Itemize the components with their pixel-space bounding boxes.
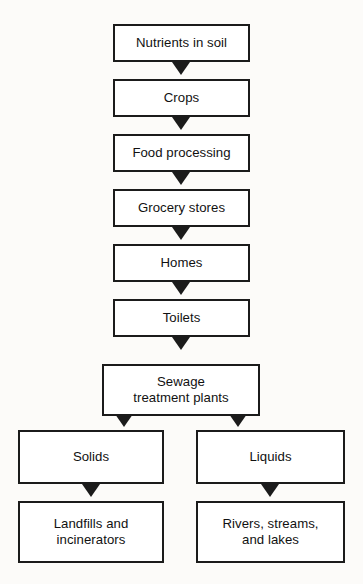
arrow-liquids-to-rivers-streams-and-lakes	[261, 484, 279, 497]
node-solids: Solids	[18, 430, 164, 484]
node-liquids: Liquids	[196, 430, 345, 484]
flowchart-diagram: Nutrients in soil Crops Food processing …	[0, 0, 363, 584]
node-label: Toilets	[159, 310, 205, 326]
node-crops: Crops	[113, 79, 250, 117]
node-label-line-2: and lakes	[238, 532, 303, 548]
node-grocery-stores: Grocery stores	[113, 189, 250, 227]
node-food-processing: Food processing	[113, 134, 250, 172]
arrow-solids-to-landfills-and-incinerators	[82, 484, 100, 497]
arrow-nutrients-to-crops	[172, 62, 190, 75]
node-label: Nutrients in soil	[132, 35, 231, 51]
arrow-crops-to-food-processing	[172, 117, 190, 130]
node-label: Liquids	[245, 449, 295, 465]
node-label-line-1: Rivers, streams,	[218, 516, 322, 532]
arrow-grocery-stores-to-homes	[172, 227, 190, 240]
arrow-toilets-to-sewage-treatment-plants	[172, 337, 190, 350]
node-label-line-1: Sewage	[153, 374, 209, 390]
node-landfills-and-incinerators: Landfills and incinerators	[18, 501, 164, 563]
node-toilets: Toilets	[113, 299, 250, 337]
node-label: Crops	[160, 90, 203, 106]
node-homes: Homes	[113, 244, 250, 282]
node-nutrients-in-soil: Nutrients in soil	[113, 24, 250, 62]
node-label: Grocery stores	[134, 200, 229, 216]
node-rivers-streams-and-lakes: Rivers, streams, and lakes	[196, 501, 345, 563]
arrow-homes-to-toilets	[172, 282, 190, 295]
arrow-food-processing-to-grocery-stores	[172, 172, 190, 185]
node-sewage-treatment-plants: Sewage treatment plants	[102, 364, 260, 416]
node-label-line-1: Landfills and	[50, 516, 133, 532]
node-label-line-2: treatment plants	[129, 390, 232, 406]
node-label: Food processing	[128, 145, 234, 161]
node-label-line-2: incinerators	[53, 532, 130, 548]
node-label: Homes	[156, 255, 206, 271]
node-label: Solids	[69, 449, 113, 465]
arrow-sewage-to-liquids	[229, 414, 247, 427]
arrow-sewage-to-solids	[115, 414, 133, 427]
